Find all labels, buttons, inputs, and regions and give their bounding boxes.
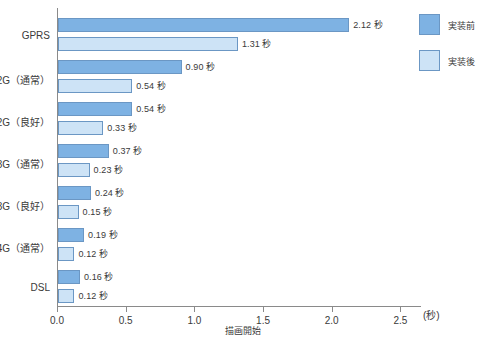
bar-value-label: 0.12 秒 [78,289,108,303]
category-label: 2G（通常） [0,72,50,87]
bar-before [58,228,84,242]
bar-after [58,163,90,177]
category-label: GPRS [0,30,50,41]
x-axis-unit-label: (秒) [423,307,440,322]
x-tick [126,307,127,312]
bar-before [58,144,109,158]
bar-value-label: 2.12 秒 [353,18,383,32]
legend-swatch-after-icon [419,50,440,71]
x-tick [332,307,333,312]
x-tick [57,307,58,312]
x-tick [194,307,195,312]
bar-value-label: 0.33 秒 [107,121,137,135]
bar-value-label: 0.54 秒 [136,79,166,93]
x-axis-title: 描画開始 [0,324,485,337]
category-label: 3G（通常） [0,156,50,171]
bar-chart: 2.12 秒1.31 秒0.90 秒0.54 秒0.54 秒0.33 秒0.37… [0,0,485,349]
bar-after [58,37,238,51]
bar-value-label: 1.31 秒 [242,37,272,51]
bar-before [58,18,349,32]
legend-label-before: 実装前 [448,19,475,32]
category-label: 4G（通常） [0,240,50,255]
bar-value-label: 0.15 秒 [83,205,113,219]
bar-value-label: 0.37 秒 [113,144,143,158]
bar-after [58,121,103,135]
category-label: 3G（良好） [0,198,50,213]
bar-value-label: 0.23 秒 [94,163,124,177]
bar-value-label: 0.19 秒 [88,228,118,242]
bar-value-label: 0.16 秒 [84,270,114,284]
legend-label-after: 実装後 [448,55,475,68]
bar-before [58,270,80,284]
bar-before [58,102,132,116]
bar-value-label: 0.24 秒 [95,186,125,200]
legend-swatch-before-icon [419,14,440,35]
bar-after [58,205,79,219]
bar-value-label: 0.12 秒 [78,247,108,261]
bar-after [58,79,132,93]
category-label: DSL [0,282,50,293]
category-label: 2G（良好） [0,114,50,129]
bar-value-label: 0.90 秒 [186,60,216,74]
bar-value-label: 0.54 秒 [136,102,166,116]
bar-after [58,247,74,261]
x-tick [400,307,401,312]
plot-area: 2.12 秒1.31 秒0.90 秒0.54 秒0.54 秒0.33 秒0.37… [57,8,421,307]
bar-before [58,60,182,74]
bar-after [58,289,74,303]
x-tick [263,307,264,312]
x-axis-line [57,306,421,307]
bar-before [58,186,91,200]
